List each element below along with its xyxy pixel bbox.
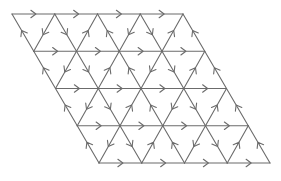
slash-edge [142,126,163,163]
backslash-edge [205,51,227,88]
slash-edge [227,126,248,163]
triangular-lattice-diagram [0,0,281,181]
backslash-edge [183,14,205,51]
backslash-edge [77,126,99,163]
backslash-edge [141,89,163,126]
backslash-edge [55,14,77,51]
backslash-edge [162,51,184,88]
backslash-edge [140,14,162,51]
backslash-edge [34,51,56,88]
slash-edge [163,89,184,126]
lattice-edges [12,14,270,163]
backslash-edge [98,89,120,126]
slash-edge [162,14,183,51]
backslash-edge [98,14,120,51]
slash-edge [185,126,206,163]
slash-edge [119,14,140,51]
slash-edge [98,51,119,88]
backslash-edge [248,126,270,163]
slash-edge [184,51,205,88]
slash-edge [77,14,98,51]
backslash-edge [120,126,142,163]
backslash-edge [119,51,141,88]
slash-edge [120,89,141,126]
backslash-edge [163,126,185,163]
slash-edge [34,14,55,51]
backslash-edge [206,126,228,163]
slash-edge [77,89,98,126]
backslash-edge [227,89,249,126]
slash-edge [141,51,162,88]
backslash-edge [56,89,78,126]
slash-edge [99,126,120,163]
slash-edge [206,89,227,126]
backslash-edge [184,89,206,126]
backslash-edge [12,14,34,51]
backslash-edge [77,51,99,88]
slash-edge [56,51,77,88]
